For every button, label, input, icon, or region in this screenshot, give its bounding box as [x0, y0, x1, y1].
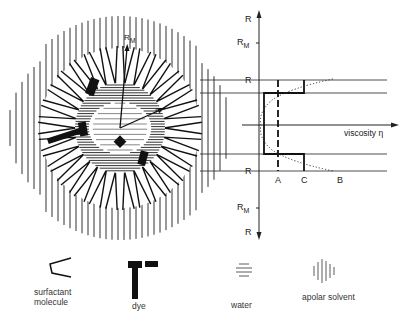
axis-label-rm-top: RM [237, 37, 249, 51]
micelle [10, 16, 226, 240]
surfactant-molecule-icon [50, 258, 71, 277]
apolar-solvent-icon [314, 259, 334, 283]
curve-label-b: B [337, 175, 343, 185]
legend-label-dye: dye [132, 301, 146, 311]
axis-label-r-bottom: R [245, 227, 252, 237]
dye-icon [128, 261, 158, 299]
axis-label-r-lower: R [245, 166, 252, 176]
axis-label-rm-bottom: RM [237, 202, 249, 216]
legend-label-surfactant: surfactant molecule [34, 287, 71, 307]
viscosity-profile-chart [200, 10, 399, 240]
water-icon [236, 264, 252, 276]
micelle-diagram [0, 0, 416, 325]
axis-label-r-upper: R [245, 75, 252, 85]
legend-label-water: water [231, 300, 252, 310]
legend-label-apolar-solvent: apolar solvent [302, 292, 355, 302]
micelle-outer-radius-label: RM [124, 33, 136, 46]
viscosity-axis-label: viscosity η [344, 128, 383, 138]
legend-icons [50, 258, 334, 299]
curve-label-a: A [275, 175, 281, 185]
axis-label-r-top: R [245, 14, 252, 24]
micelle-inner-radius-label: R [155, 106, 161, 116]
curve-label-c: C [301, 175, 308, 185]
